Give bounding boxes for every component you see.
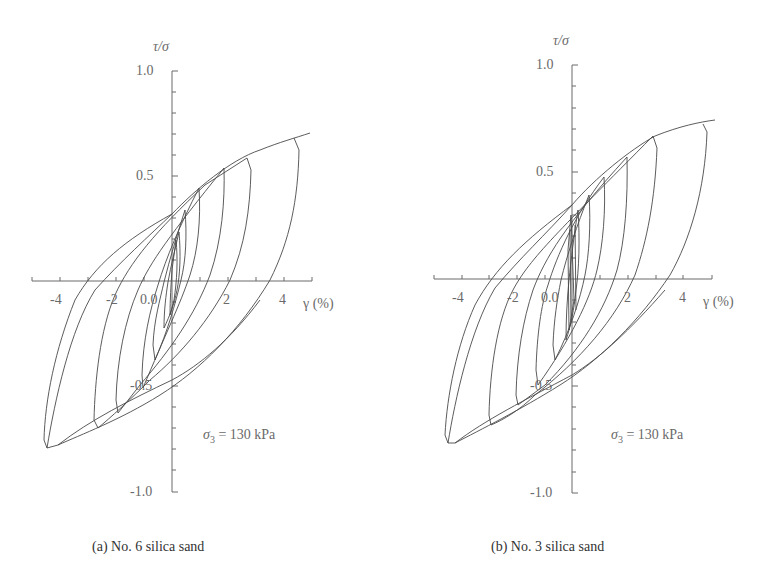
x-tick-2: 2 <box>624 291 631 305</box>
pressure-value: = 130 kPa <box>215 427 275 442</box>
caption-a: (a) No. 6 silica sand <box>92 540 204 554</box>
y-tick-neg-0.5: -0.5 <box>130 379 152 393</box>
y-tick-1.0: 1.0 <box>136 64 154 78</box>
sigma-symbol: σ <box>611 427 618 442</box>
y-tick-0.5: 0.5 <box>536 165 554 179</box>
y-axis-title: τ/σ <box>153 40 169 54</box>
y-tick-0.5: 0.5 <box>136 169 154 183</box>
caption-b: (b) No. 3 silica sand <box>491 540 604 554</box>
x-tick-neg-2: -2 <box>106 293 118 307</box>
x-tick-0: 0.0 <box>140 293 158 307</box>
pressure-value: = 130 kPa <box>623 427 683 442</box>
y-tick-neg-1.0: -1.0 <box>130 485 152 499</box>
x-tick-neg-4: -4 <box>50 293 62 307</box>
chart-panel-a: τ/σ 1.0 0.5 -0.5 -1.0 -4 -2 0.0 2 4 γ (%… <box>0 0 385 588</box>
y-tick-neg-0.5: -0.5 <box>530 379 552 393</box>
y-tick-neg-1.0: -1.0 <box>530 486 552 500</box>
x-tick-neg-2: -2 <box>507 291 519 305</box>
x-axis-title: γ (%) <box>303 297 334 311</box>
sigma-symbol: σ <box>203 427 210 442</box>
x-tick-2: 2 <box>223 293 230 307</box>
x-tick-0: 0.0 <box>541 291 559 305</box>
x-tick-neg-4: -4 <box>452 291 464 305</box>
confining-pressure-annotation: σ3 = 130 kPa <box>203 428 275 445</box>
confining-pressure-annotation: σ3 = 130 kPa <box>611 428 683 445</box>
x-tick-4: 4 <box>679 291 686 305</box>
x-axis-title: γ (%) <box>703 295 734 309</box>
y-axis-title: τ/σ <box>553 34 569 48</box>
chart-panel-b: τ/σ 1.0 0.5 -0.5 -1.0 -4 -2 0.0 2 4 γ (%… <box>385 0 770 588</box>
x-tick-4: 4 <box>279 293 286 307</box>
y-tick-1.0: 1.0 <box>536 58 554 72</box>
